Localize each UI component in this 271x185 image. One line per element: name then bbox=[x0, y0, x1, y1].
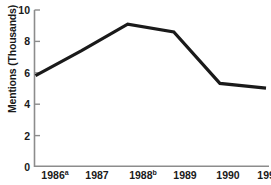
x-tick-label-1991: 1991 bbox=[244, 169, 271, 181]
x-tick-year-1989: 1989 bbox=[173, 169, 196, 181]
x-tick-year-1988: 1988 bbox=[129, 169, 152, 181]
plot-area bbox=[0, 0, 271, 185]
x-tick-year-1991: 1991 bbox=[257, 169, 271, 181]
x-tick-year-1986: 1986 bbox=[41, 169, 64, 181]
line-chart: Mentions (Thousands) 10 8 6 4 2 0 1986a … bbox=[0, 0, 271, 185]
data-series-line bbox=[36, 24, 267, 88]
x-tick-superscript-a: a bbox=[65, 169, 69, 176]
x-tick-superscript-b: b bbox=[153, 169, 157, 176]
x-tick-year-1990: 1990 bbox=[216, 169, 239, 181]
x-tick-year-1987: 1987 bbox=[85, 169, 108, 181]
